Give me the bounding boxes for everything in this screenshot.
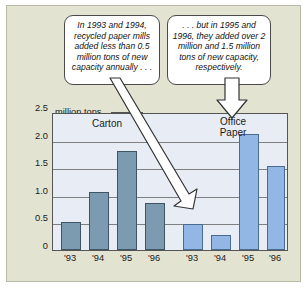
bar-office-95 — [239, 134, 259, 250]
x-tick-office-93: '93 — [186, 253, 198, 263]
x-tick-office-96: '96 — [269, 253, 281, 263]
x-axis: '93 '94 '95 '96 '93 '94 '95 '96 — [52, 253, 288, 269]
y-tick-0: 0 — [43, 241, 48, 251]
bar-carton-94 — [89, 192, 109, 250]
bar-carton-96 — [145, 203, 165, 250]
x-tick-carton-96: '96 — [148, 253, 160, 263]
y-tick-1-5: 1.5 — [35, 158, 48, 168]
y-tick-0-5: 0.5 — [35, 213, 48, 223]
group-label-carton: Carton — [67, 118, 147, 129]
y-tick-1-0: 1.0 — [35, 186, 48, 196]
callout-left: In 1993 and 1994, recycled paper mills a… — [64, 15, 160, 85]
x-tick-office-94: '94 — [214, 253, 226, 263]
bar-carton-93 — [61, 222, 81, 250]
y-tick-2-5: 2.5 — [35, 103, 48, 113]
bar-carton-95 — [117, 151, 137, 250]
x-tick-office-95: '95 — [242, 253, 254, 263]
chart-figure-root: In 1993 and 1994, recycled paper mills a… — [0, 0, 308, 293]
bar-office-93 — [183, 224, 203, 251]
y-axis: 2.5 2.0 1.5 1.0 0.5 0 — [7, 105, 52, 255]
bar-office-96 — [267, 166, 285, 251]
x-tick-carton-95: '95 — [120, 253, 132, 263]
callout-left-text: In 1993 and 1994, recycled paper mills a… — [69, 20, 155, 73]
bar-office-94 — [211, 235, 231, 250]
callout-right: . . . but in 1995 and 1996, they added o… — [167, 15, 271, 85]
y-tick-2-0: 2.0 — [35, 131, 48, 141]
figure-panel: In 1993 and 1994, recycled paper mills a… — [6, 5, 301, 282]
callout-right-text: . . . but in 1995 and 1996, they added o… — [172, 20, 266, 73]
group-label-office: Office Paper — [203, 116, 263, 138]
x-tick-carton-93: '93 — [64, 253, 76, 263]
x-tick-carton-94: '94 — [92, 253, 104, 263]
